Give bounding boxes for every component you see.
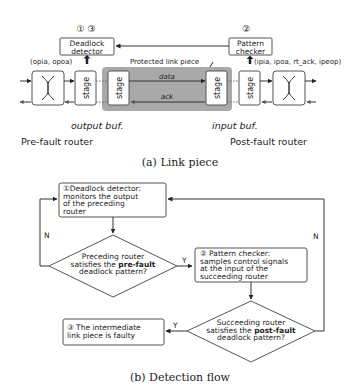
link-piece-diagram: ① ③ Deadlock detector (opia, opoa) ② Pat… — [20, 24, 341, 169]
no-label-2: N — [313, 232, 319, 241]
svg-text:stage: stage — [82, 77, 91, 99]
input-buf-label: input buf. — [212, 120, 258, 131]
svg-text:checker: checker — [236, 47, 266, 56]
pattern-checker-box: Pattern checker — [229, 38, 272, 56]
deadlock-detector-box: Deadlock detector — [60, 38, 114, 56]
svg-text:deadlock pattern?: deadlock pattern? — [79, 267, 147, 276]
pre-fault-router-label: Pre-fault router — [21, 136, 93, 147]
svg-text:deadlock pattern?: deadlock pattern? — [217, 333, 285, 342]
yes-label-2: Y — [172, 321, 178, 330]
svg-text:stage: stage — [115, 77, 124, 99]
svg-text:stage: stage — [213, 77, 222, 99]
detector-markers: ① ③ — [77, 24, 96, 34]
svg-text:succeeding router: succeeding router — [200, 272, 269, 281]
detector-signals: (opia, opoa) — [30, 58, 72, 66]
yes-label-1: Y — [181, 256, 187, 265]
caption-b: (b) Detection flow — [130, 371, 231, 384]
no-label-1: N — [44, 231, 50, 240]
post-fault-router-label: Post-fault router — [230, 136, 307, 147]
output-buf-label: output buf. — [71, 120, 124, 131]
pattern-checker-step: ② Pattern checker: samples control signa… — [195, 248, 307, 282]
pre-router-crossbar — [32, 71, 64, 105]
checker-signals: (ipia, ipoa, rt_ack, ipeop) — [254, 58, 341, 66]
input-buffer-stage: stage — [206, 71, 227, 105]
svg-text:link piece is faulty: link piece is faulty — [67, 331, 136, 340]
svg-text:detector: detector — [71, 47, 104, 56]
ack-label: ack — [161, 93, 174, 101]
post-fault-decision: Succeeding router satisfies the post-fau… — [187, 301, 315, 362]
output-buffer-stage: stage — [108, 71, 129, 105]
pre-fault-decision: Preceding router satisfies the pre-fault… — [49, 235, 177, 297]
pre-router-stage: stage — [75, 71, 96, 105]
svg-text:router: router — [63, 207, 87, 216]
faulty-link-result: ③ The intermediate link piece is faulty — [63, 319, 164, 345]
detection-flow-diagram: ①Deadlock detector: monitors the output … — [40, 183, 324, 384]
checker-marker: ② — [242, 24, 250, 34]
protected-link-label: Protected link piece — [130, 58, 199, 66]
post-router-stage: stage — [239, 71, 260, 105]
svg-text:stage: stage — [246, 77, 255, 99]
caption-a: (a) Link piece — [142, 156, 218, 169]
post-router-crossbar — [273, 71, 305, 105]
data-label: data — [159, 73, 175, 81]
figure-canvas: ① ③ Deadlock detector (opia, opoa) ② Pat… — [0, 0, 361, 388]
deadlock-detector-step: ①Deadlock detector: monitors the output … — [59, 183, 166, 217]
